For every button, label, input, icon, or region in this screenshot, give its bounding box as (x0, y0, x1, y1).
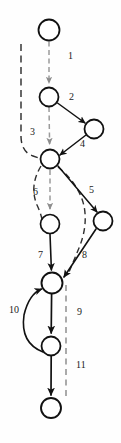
edge-label-1: 1 (68, 51, 73, 61)
node-n9[interactable] (41, 398, 61, 418)
edge-label-10: 10 (9, 305, 19, 315)
edge-label-6: 6 (33, 187, 38, 197)
node-n4[interactable] (41, 150, 60, 169)
solid-edge-n8-n7-feedback (23, 289, 43, 352)
edge-label-7: 7 (38, 250, 43, 260)
solid-edge-n5-n7 (50, 234, 51, 270)
node-n8[interactable] (42, 337, 61, 356)
solid-edge-n2-n3 (58, 103, 86, 123)
edge-label-8: 8 (82, 250, 87, 260)
dash-edge-left-bypass-n4 (21, 44, 40, 159)
edge-label-3: 3 (30, 127, 35, 137)
edge-label-9: 9 (77, 307, 82, 317)
edge-label-5: 5 (89, 185, 94, 195)
graph-svg (0, 0, 121, 443)
node-n6[interactable] (94, 212, 113, 231)
solid-edge-n6-n7 (64, 229, 96, 277)
node-n1[interactable] (39, 20, 60, 41)
dash-edge-n2-n4 (49, 107, 50, 144)
edge-label-4: 4 (80, 139, 85, 149)
node-n5[interactable] (41, 215, 60, 234)
node-n3[interactable] (85, 120, 104, 139)
edge-label-11: 11 (76, 360, 86, 370)
diagram-canvas: 1 2 3 4 5 6 7 8 9 10 11 (0, 0, 121, 443)
node-n2[interactable] (40, 88, 59, 107)
node-n7[interactable] (42, 273, 63, 294)
edge-label-2: 2 (69, 92, 74, 102)
